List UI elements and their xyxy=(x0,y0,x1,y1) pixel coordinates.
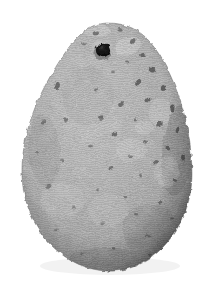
artifact-photograph-canvas xyxy=(0,0,218,285)
hole-inner-glint xyxy=(99,45,104,48)
artifact-photograph-figure: Grayscale photograph of a pear-shaped pi… xyxy=(0,0,218,285)
drilled-hole-icon xyxy=(92,40,115,61)
hole-bore xyxy=(96,43,110,57)
